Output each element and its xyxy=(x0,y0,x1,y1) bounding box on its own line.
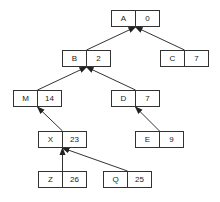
node-label: C xyxy=(161,51,185,66)
edge-b-to-a xyxy=(87,27,136,50)
node-label: E xyxy=(136,132,160,147)
node-label: A xyxy=(112,11,136,26)
node-label: D xyxy=(112,91,136,106)
edge-d-to-b xyxy=(87,67,136,90)
node-value: 25 xyxy=(128,172,151,187)
node-value: 2 xyxy=(87,51,110,66)
node-value: 0 xyxy=(136,11,159,26)
node-label: Z xyxy=(39,172,63,187)
node-value: 23 xyxy=(63,132,86,147)
tree-node-d: D7 xyxy=(111,90,160,107)
tree-node-q: Q25 xyxy=(103,171,152,188)
node-label: X xyxy=(39,132,63,147)
edge-e-to-d xyxy=(136,107,160,131)
node-value: 7 xyxy=(136,91,159,106)
node-label: M xyxy=(14,91,38,106)
tree-node-e: E9 xyxy=(135,131,184,148)
tree-node-x: X23 xyxy=(38,131,87,148)
node-value: 14 xyxy=(38,91,61,106)
tree-node-a: A0 xyxy=(111,10,160,27)
edge-m-to-b xyxy=(38,67,87,90)
tree-node-z: Z26 xyxy=(38,171,87,188)
tree-node-c: C7 xyxy=(160,50,209,67)
edge-x-to-m xyxy=(38,107,63,131)
tree-node-m: M14 xyxy=(13,90,62,107)
edge-c-to-a xyxy=(136,27,185,50)
node-value: 7 xyxy=(185,51,208,66)
node-label: B xyxy=(63,51,87,66)
edge-q-to-x xyxy=(63,148,128,171)
node-value: 26 xyxy=(63,172,86,187)
node-value: 9 xyxy=(160,132,183,147)
tree-node-b: B2 xyxy=(62,50,111,67)
node-label: Q xyxy=(104,172,128,187)
